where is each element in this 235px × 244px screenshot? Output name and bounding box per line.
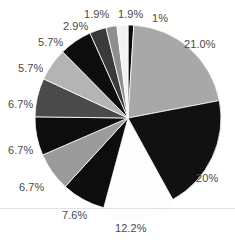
slice-label-21-0-percent: 21.0% xyxy=(184,38,216,50)
pie-slices-group xyxy=(35,25,221,220)
slice-label-12-2-percent: 12.2% xyxy=(115,222,147,234)
slice-label-7-6-percent: 7.6% xyxy=(62,209,87,221)
slice-label-6-7-percent-c: 6.7% xyxy=(19,181,44,193)
slice-label-6-7-percent-a: 6.7% xyxy=(8,98,33,110)
pie-chart: 21.0% 20% 12.2% 7.6% 6.7% 6.7% 6.7% 5.7%… xyxy=(0,0,235,244)
slice-label-1-percent: 1% xyxy=(152,12,168,24)
slice-label-5-7-percent-b: 5.7% xyxy=(18,62,43,74)
slice-label-6-7-percent-b: 6.7% xyxy=(8,144,33,156)
slice-label-1-9-percent-a: 1.9% xyxy=(118,8,143,20)
slice-label-5-7-percent-a: 5.7% xyxy=(38,36,63,48)
baseline-divider xyxy=(0,208,235,209)
slice-label-2-9-percent: 2.9% xyxy=(63,20,88,32)
slice-label-20-percent: 20% xyxy=(196,172,218,184)
slice-label-1-9-percent-b: 1.9% xyxy=(84,8,109,20)
